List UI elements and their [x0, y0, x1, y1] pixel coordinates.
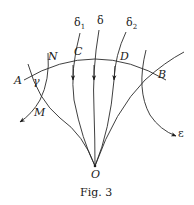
curve-right-to-o [95, 52, 184, 166]
label-delta: δ [97, 14, 104, 27]
label-d: D [119, 50, 129, 63]
figure-3: A B C D N M O γ ε δ1 δ δ2 Fig. 3 [0, 0, 194, 205]
label-m: M [33, 106, 46, 119]
diagram-canvas: A B C D N M O γ ε δ1 δ δ2 Fig. 3 [0, 0, 194, 205]
arrow-delta2 [114, 66, 115, 80]
curve-epsilon [142, 50, 176, 136]
label-a: A [13, 74, 22, 87]
streamline-delta [94, 30, 99, 166]
label-c: C [74, 45, 83, 58]
label-delta1-sub: 1 [81, 23, 85, 31]
label-gamma: γ [33, 75, 40, 88]
label-epsilon: ε [178, 127, 184, 140]
label-delta2-sub: 2 [133, 23, 137, 31]
label-o: O [91, 168, 100, 181]
label-delta1: δ1 [74, 16, 85, 31]
label-delta2: δ2 [126, 16, 137, 31]
point-o [94, 165, 97, 168]
figure-caption: Fig. 3 [80, 186, 112, 199]
label-b: B [157, 68, 166, 81]
label-n: N [47, 50, 58, 63]
